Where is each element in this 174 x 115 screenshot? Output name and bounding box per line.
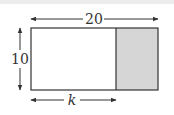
rectangle-diagram: 20 10 k	[0, 0, 174, 115]
width-label: 20	[85, 11, 103, 27]
k-label: k	[68, 92, 76, 108]
shaded-region	[116, 28, 158, 90]
height-label: 10	[11, 51, 29, 67]
